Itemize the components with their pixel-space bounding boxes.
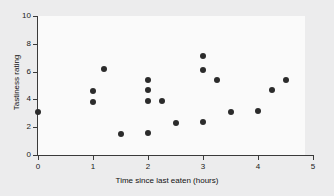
data-point: [90, 88, 96, 94]
x-axis-tick: [148, 156, 149, 160]
x-axis-line: [37, 155, 314, 156]
x-axis-tick: [93, 156, 94, 160]
data-point: [145, 77, 151, 83]
data-point: [101, 66, 107, 72]
x-axis-tick: [203, 156, 204, 160]
y-axis-tick: [33, 99, 37, 100]
x-axis-title: Time since last eaten (hours): [0, 176, 334, 185]
scatter-plot-figure: 0246810 012345 Time since last eaten (ho…: [0, 0, 334, 196]
y-axis-tick: [33, 16, 37, 17]
y-axis-tick-label-wrap: 10: [5, 12, 31, 20]
data-point: [200, 67, 206, 73]
x-axis-tick-label: 1: [83, 162, 103, 171]
x-axis-tick-label: 3: [193, 162, 213, 171]
data-point: [173, 120, 179, 126]
plot-data-area: [38, 16, 313, 155]
y-axis-title: Tastiness rating: [12, 23, 21, 143]
y-axis-tick: [33, 127, 37, 128]
data-point: [283, 77, 289, 83]
y-axis-tick-label: 10: [7, 12, 31, 20]
y-axis-tick: [33, 155, 37, 156]
y-axis-tick: [33, 72, 37, 73]
data-point: [228, 109, 234, 115]
y-axis-tick-label: 0: [7, 151, 31, 159]
x-axis-tick-label: 5: [303, 162, 323, 171]
y-axis-tick-label-wrap: 0: [5, 151, 31, 159]
x-axis-tick: [313, 156, 314, 160]
x-axis-tick-label: 0: [28, 162, 48, 171]
data-point: [35, 109, 41, 115]
x-axis-tick-label: 4: [248, 162, 268, 171]
data-point: [214, 77, 220, 83]
y-axis-tick: [33, 44, 37, 45]
x-axis-tick-label: 2: [138, 162, 158, 171]
x-axis-tick: [258, 156, 259, 160]
x-axis-tick: [38, 156, 39, 160]
data-point: [118, 131, 124, 137]
